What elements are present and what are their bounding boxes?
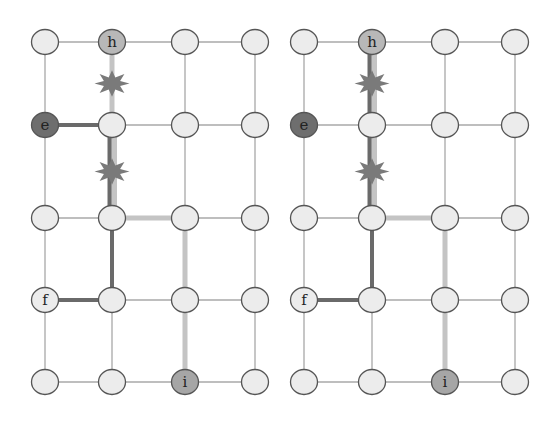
node-circle xyxy=(502,288,529,313)
node-circle xyxy=(32,370,59,395)
grid-node xyxy=(502,206,529,231)
node-label: i xyxy=(183,373,188,391)
node-circle xyxy=(359,113,386,138)
node-i: i xyxy=(432,370,459,395)
node-circle xyxy=(291,30,318,55)
grid-node xyxy=(502,370,529,395)
grid-node xyxy=(242,206,269,231)
left-grid: hefi xyxy=(32,30,269,395)
grid-node xyxy=(172,288,199,313)
grid-node xyxy=(432,288,459,313)
node-circle xyxy=(32,30,59,55)
grid-node xyxy=(99,370,126,395)
grid-node xyxy=(359,370,386,395)
diagram-canvas: hefihefi xyxy=(0,0,559,421)
grid-diagram-figure: hefihefi xyxy=(0,0,559,421)
node-circle xyxy=(172,30,199,55)
grid-node xyxy=(242,30,269,55)
node-circle xyxy=(502,30,529,55)
grid-node xyxy=(432,206,459,231)
node-circle xyxy=(432,288,459,313)
node-f: f xyxy=(291,288,318,313)
node-e: e xyxy=(291,113,318,138)
grid-node xyxy=(242,288,269,313)
node-circle xyxy=(99,288,126,313)
grid-node xyxy=(502,113,529,138)
node-circle xyxy=(432,206,459,231)
node-circle xyxy=(359,206,386,231)
grid-node xyxy=(432,113,459,138)
grid-node xyxy=(432,30,459,55)
grid-node xyxy=(502,30,529,55)
node-label: e xyxy=(300,116,309,134)
grid-node xyxy=(291,370,318,395)
grid-node xyxy=(32,206,59,231)
nodes: hefi xyxy=(291,30,529,395)
grid-node xyxy=(359,206,386,231)
star-marker-icon xyxy=(355,70,390,97)
grid-edges xyxy=(304,42,515,382)
node-label: e xyxy=(41,116,50,134)
grid-node xyxy=(172,206,199,231)
star-marker-icon xyxy=(95,70,130,97)
nodes: hefi xyxy=(32,30,269,395)
node-circle xyxy=(502,370,529,395)
grid-node xyxy=(99,288,126,313)
grid-node xyxy=(172,113,199,138)
right-grid: hefi xyxy=(291,30,529,395)
node-circle xyxy=(432,113,459,138)
node-circle xyxy=(359,288,386,313)
node-i: i xyxy=(172,370,199,395)
node-circle xyxy=(242,30,269,55)
grid-node xyxy=(242,113,269,138)
grid-node xyxy=(291,206,318,231)
node-label: i xyxy=(443,373,448,391)
node-circle xyxy=(242,288,269,313)
grid-node xyxy=(291,30,318,55)
grid-node xyxy=(99,113,126,138)
node-circle xyxy=(172,288,199,313)
node-circle xyxy=(432,30,459,55)
grid-node xyxy=(32,370,59,395)
node-circle xyxy=(99,113,126,138)
node-label: h xyxy=(367,33,377,51)
node-circle xyxy=(242,370,269,395)
node-circle xyxy=(172,206,199,231)
grid-node xyxy=(32,30,59,55)
grid-node xyxy=(242,370,269,395)
grid-node xyxy=(359,113,386,138)
star-marker-icon xyxy=(95,158,130,185)
node-circle xyxy=(291,206,318,231)
node-circle xyxy=(32,206,59,231)
grid-node xyxy=(99,206,126,231)
node-h: h xyxy=(359,30,386,55)
node-h: h xyxy=(99,30,126,55)
node-circle xyxy=(502,113,529,138)
node-circle xyxy=(291,370,318,395)
node-circle xyxy=(99,370,126,395)
grid-node xyxy=(172,30,199,55)
node-circle xyxy=(99,206,126,231)
node-circle xyxy=(502,206,529,231)
node-label: h xyxy=(107,33,117,51)
node-e: e xyxy=(32,113,59,138)
node-circle xyxy=(359,370,386,395)
node-circle xyxy=(242,113,269,138)
node-f: f xyxy=(32,288,59,313)
grid-edges xyxy=(45,42,255,382)
grid-node xyxy=(359,288,386,313)
node-circle xyxy=(242,206,269,231)
star-marker-icon xyxy=(355,158,390,185)
node-circle xyxy=(172,113,199,138)
grid-node xyxy=(502,288,529,313)
